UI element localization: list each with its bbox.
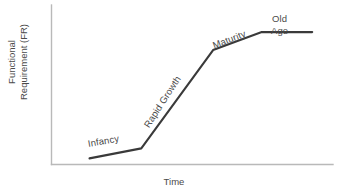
- y-axis-title: Functional Requirement (FR): [6, 0, 30, 127]
- functional-requirement-curve: [90, 32, 313, 158]
- phase-label-old-age: Old Age: [271, 13, 288, 36]
- phase-label-old: Old: [272, 13, 287, 24]
- y-axis-title-line1: Functional: [6, 40, 17, 84]
- y-axis-title-line2: Requirement (FR): [18, 0, 30, 127]
- plot-area: [0, 0, 348, 194]
- x-axis-title: Time: [0, 176, 348, 187]
- s-curve-diagram: Infancy Rapid Growth Maturity Old Age Ti…: [0, 0, 348, 194]
- phase-label-age: Age: [271, 25, 288, 37]
